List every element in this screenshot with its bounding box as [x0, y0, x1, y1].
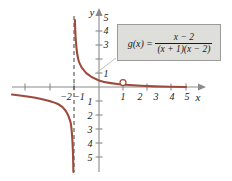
y-tick-label: 2	[88, 110, 93, 121]
fraction: x − 2 (x + 1)(x − 2)	[155, 33, 212, 55]
y-tick-label: 1	[104, 68, 109, 79]
y-tick-label: 5	[104, 12, 109, 23]
y-tick-label: 3	[103, 39, 109, 50]
x-tick-label: 4	[170, 91, 175, 102]
curve-left-branch	[12, 95, 73, 173]
equals-sign: =	[144, 38, 156, 49]
y-tick-label: 4	[88, 138, 93, 149]
x-axis-label: x	[195, 91, 201, 103]
function-graph-figure: −2 −1 1 2 3 4 5 1 3 4 5 1 2 3 4 5 x y	[0, 0, 232, 181]
x-tick-label: 2	[138, 91, 143, 102]
x-tick-label: 3	[153, 91, 159, 102]
x-axis-arrow	[198, 83, 206, 90]
function-name-label: g(x)	[128, 38, 144, 49]
x-tick-label: 1	[121, 91, 126, 102]
x-tick-label: −1	[73, 91, 85, 102]
x-tick-labels: −2 −1 1 2 3 4 5	[60, 91, 189, 102]
removable-discontinuity-open-circle	[120, 80, 126, 86]
x-tick-label: −2	[60, 91, 72, 102]
y-axis-arrow	[95, 8, 102, 16]
y-tick-labels-negative: 1 2 3 4 5	[87, 96, 93, 163]
y-tick-labels-positive: 1 3 4 5	[103, 12, 109, 79]
fraction-denominator: (x + 1)(x − 2)	[155, 43, 212, 55]
y-tick-label: 5	[88, 152, 93, 163]
y-tick-label: 3	[87, 124, 93, 135]
formula-callout-box: g(x) = x − 2 (x + 1)(x − 2)	[117, 24, 221, 61]
y-tick-label: 1	[88, 96, 93, 107]
formula-content: g(x) = x − 2 (x + 1)(x − 2)	[118, 25, 222, 62]
x-tick-label: 5	[185, 91, 190, 102]
y-tick-label: 4	[104, 25, 109, 36]
fraction-numerator: x − 2	[172, 33, 196, 44]
y-axis-label: y	[89, 6, 95, 18]
